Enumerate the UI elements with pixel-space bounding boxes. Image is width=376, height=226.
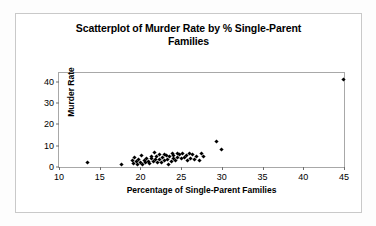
y-tick-mark [56,81,59,82]
data-point [85,161,89,165]
x-tick-label: 45 [339,172,349,182]
y-tick-label: 40 [44,77,54,87]
y-tick-label: 30 [44,98,54,108]
x-tick-label: 40 [298,172,308,182]
chart-title-line-1: Scatterplot of Murder Rate by % Single-P… [36,22,341,35]
data-point [197,158,201,162]
x-tick-label: 20 [135,172,145,182]
data-point [214,139,218,143]
y-tick-label: 0 [49,162,54,172]
data-point [147,162,151,166]
x-tick-label: 35 [258,172,268,182]
plot-area: Murder Rate Percentage of Single-Parent … [58,72,345,168]
x-tick-mark [222,167,223,170]
x-tick-mark [181,167,182,170]
data-points-layer [59,73,344,167]
x-tick-mark [59,167,60,170]
x-tick-mark [263,167,264,170]
x-axis-label: Percentage of Single-Parent Families [59,185,344,195]
data-point [202,155,206,159]
chart-title: Scatterplot of Murder Rate by % Single-P… [36,22,341,48]
data-point [139,154,143,158]
x-tick-mark [303,167,304,170]
x-tick-label: 30 [217,172,227,182]
x-tick-mark [344,167,345,170]
data-point [341,77,345,81]
x-tick-label: 25 [176,172,186,182]
data-point [120,162,124,166]
x-tick-label: 15 [95,172,105,182]
chart-title-line-2: Families [36,35,341,48]
y-tick-label: 20 [44,119,54,129]
y-tick-label: 10 [44,141,54,151]
x-tick-mark [100,167,101,170]
y-tick-mark [56,145,59,146]
data-point [220,147,224,151]
x-tick-mark [140,167,141,170]
y-tick-mark [56,102,59,103]
x-tick-label: 10 [54,172,64,182]
y-tick-mark [56,124,59,125]
scatterplot-figure: Scatterplot of Murder Rate by % Single-P… [0,0,376,226]
